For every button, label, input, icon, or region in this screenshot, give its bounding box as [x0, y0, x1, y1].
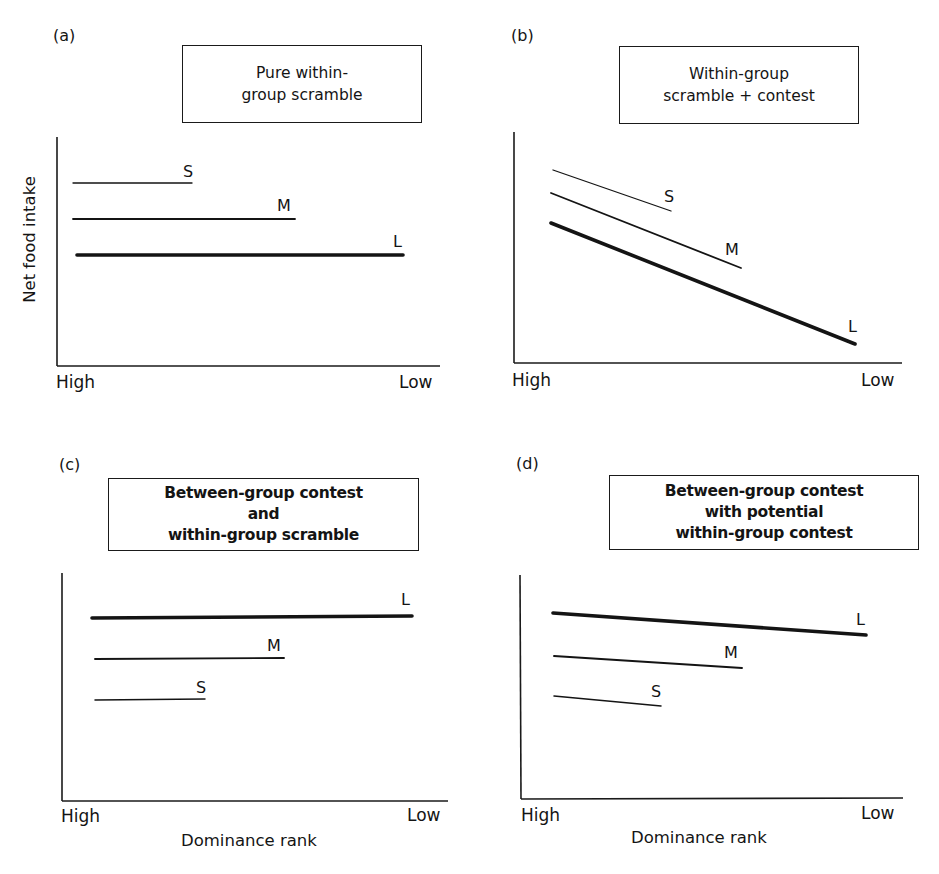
figure-plot-area [0, 0, 939, 874]
panel-d-title-line-2: with potential [705, 502, 823, 523]
panel-a-axes [57, 137, 440, 366]
series-label-m: M [267, 636, 281, 655]
series-label-l: L [856, 610, 865, 629]
series-line-l [92, 616, 412, 618]
panel-d-label: (d) [516, 454, 539, 473]
y-axis [520, 575, 521, 799]
panel-b-label: (b) [511, 26, 534, 45]
x-axis-label: Dominance rank [631, 828, 767, 847]
series-label-s: S [183, 162, 193, 181]
panel-a-title-line-1: Pure within- [256, 62, 348, 84]
x-tick-low: Low [407, 805, 440, 825]
x-tick-high: High [512, 370, 551, 390]
panel-a-title-line-2: group scramble [241, 84, 362, 106]
series-label-s: S [196, 678, 206, 697]
x-axis [521, 798, 903, 799]
series-label-l: L [401, 590, 410, 609]
panel-c-axes [62, 573, 448, 801]
panel-d-title-line-3: within-group contest [675, 523, 852, 544]
series-label-s: S [651, 682, 661, 701]
panel-b-title-box: Within-group scramble + contest [619, 46, 859, 124]
panel-c-title-box: Between-group contest and within-group s… [108, 478, 419, 551]
series-label-m: M [725, 240, 739, 259]
panel-d-title-line-1: Between-group contest [665, 481, 864, 502]
x-tick-high: High [61, 806, 100, 826]
panel-b-series [551, 170, 855, 344]
panel-a-label: (a) [53, 26, 75, 45]
series-line-s [553, 170, 671, 211]
series-label-m: M [277, 196, 291, 215]
panel-a-title-box: Pure within- group scramble [182, 45, 422, 123]
panel-d-axes [520, 575, 903, 799]
panel-c-title-line-2: and [248, 504, 280, 525]
series-line-l [551, 223, 855, 344]
panel-b-axes [514, 132, 902, 363]
x-tick-low: Low [399, 372, 432, 392]
series-line-m [95, 658, 284, 659]
panel-a-series [73, 183, 403, 255]
panel-d-series [553, 613, 866, 706]
panel-b-title-line-1: Within-group [689, 63, 789, 85]
series-line-s [554, 696, 661, 706]
x-tick-high: High [521, 805, 560, 825]
series-label-l: L [848, 317, 857, 336]
x-tick-low: Low [861, 803, 894, 823]
x-axis-label: Dominance rank [181, 831, 317, 850]
panel-c-label: (c) [59, 455, 80, 474]
panel-c-series [92, 616, 412, 700]
x-tick-low: Low [861, 370, 894, 390]
panel-d-title-box: Between-group contest with potential wit… [609, 475, 919, 550]
panel-b-title-line-2: scramble + contest [663, 85, 815, 107]
series-label-m: M [724, 643, 738, 662]
panel-c-title-line-3: within-group scramble [168, 525, 359, 546]
panel-c-title-line-1: Between-group contest [164, 483, 363, 504]
series-line-s [95, 699, 205, 700]
series-label-s: S [664, 187, 674, 206]
series-label-l: L [393, 232, 402, 251]
series-line-m [554, 656, 742, 668]
y-axis-label: Net food intake [20, 175, 39, 305]
series-line-m [551, 193, 741, 268]
x-tick-high: High [56, 372, 95, 392]
series-line-l [553, 613, 866, 635]
